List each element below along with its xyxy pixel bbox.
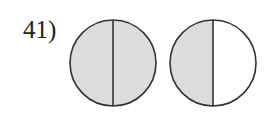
circle-2-left-half	[170, 20, 213, 106]
circle-1-left-half	[70, 20, 113, 106]
circle-1	[70, 20, 156, 106]
circle-1-right-half	[113, 20, 156, 106]
circle-2-right-half	[213, 20, 256, 106]
circle-2	[170, 20, 256, 106]
fraction-circles	[0, 0, 273, 129]
